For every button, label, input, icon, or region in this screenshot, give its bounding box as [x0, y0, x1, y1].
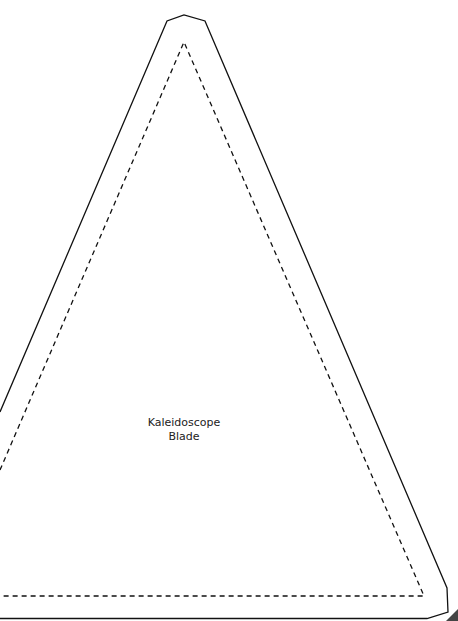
kaleidoscope-blade-template — [0, 0, 458, 621]
cut-outline — [0, 15, 448, 619]
blade-label-line2: Blade — [124, 430, 244, 444]
blade-label: Kaleidoscope Blade — [124, 416, 244, 444]
fold-line-dashed — [0, 42, 424, 596]
blade-label-line1: Kaleidoscope — [124, 416, 244, 430]
